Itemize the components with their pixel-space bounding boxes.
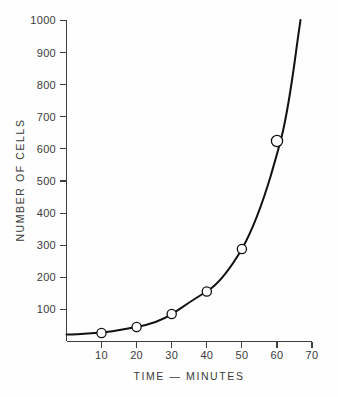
x-axis-title: TIME — MINUTES bbox=[133, 370, 244, 382]
x-tick-label-70: 70 bbox=[306, 349, 319, 361]
chart-figure: 1000 900 800 700 600 500 400 300 200 100… bbox=[0, 0, 338, 397]
exponential-growth-curve bbox=[67, 20, 301, 335]
x-tick-label-60: 60 bbox=[271, 349, 284, 361]
y-tick-label-100: 100 bbox=[37, 303, 56, 315]
y-tick-marks bbox=[60, 21, 67, 310]
x-tick-label-10: 10 bbox=[95, 349, 108, 361]
x-tick-marks bbox=[102, 342, 313, 349]
y-tick-label-400: 400 bbox=[37, 207, 56, 219]
y-tick-label-200: 200 bbox=[37, 271, 56, 283]
x-tick-label-30: 30 bbox=[165, 349, 178, 361]
data-point-10min bbox=[97, 328, 106, 337]
data-point-60min bbox=[271, 135, 282, 146]
data-point-20min bbox=[132, 322, 141, 331]
data-point-50min bbox=[237, 244, 246, 253]
x-tick-label-50: 50 bbox=[235, 349, 248, 361]
y-tick-label-500: 500 bbox=[37, 175, 56, 187]
chart-canvas: 1000 900 800 700 600 500 400 300 200 100… bbox=[0, 0, 338, 397]
x-tick-label-20: 20 bbox=[130, 349, 143, 361]
y-tick-label-300: 300 bbox=[37, 239, 56, 251]
y-tick-label-600: 600 bbox=[37, 143, 56, 155]
y-axis-title: NUMBER OF CELLS bbox=[14, 118, 26, 241]
x-tick-label-40: 40 bbox=[200, 349, 213, 361]
y-tick-label-1000: 1000 bbox=[30, 14, 56, 26]
data-point-30min bbox=[167, 309, 176, 318]
y-tick-label-900: 900 bbox=[37, 47, 56, 59]
data-point-40min bbox=[202, 287, 211, 296]
y-tick-label-800: 800 bbox=[37, 79, 56, 91]
y-tick-label-700: 700 bbox=[37, 111, 56, 123]
